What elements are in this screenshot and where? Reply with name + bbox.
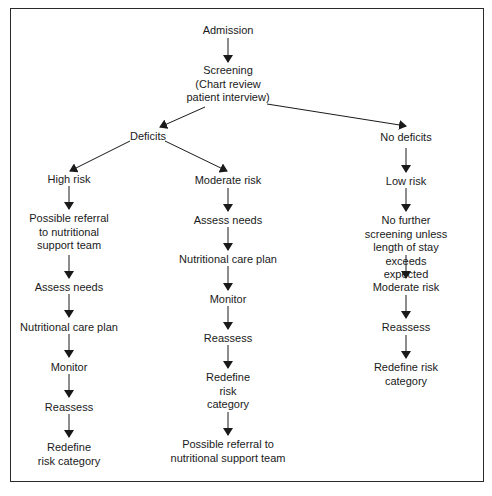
node-high-step-5: Reassess — [45, 401, 93, 415]
node-screening: Screening (Chart review patient intervie… — [186, 64, 269, 105]
node-high-step-2: Assess needs — [35, 281, 103, 295]
node-low-step-2: Moderate risk — [373, 281, 440, 295]
node-moderate-step-4: Reassess — [204, 332, 252, 346]
node-moderate-step-2: Nutritional care plan — [179, 253, 277, 267]
node-low-step-4: Redefine risk category — [363, 361, 449, 388]
node-moderate-risk: Moderate risk — [195, 174, 262, 188]
node-high-risk: High risk — [48, 173, 91, 187]
node-high-step-3: Nutritional care plan — [20, 321, 118, 335]
node-deficits: Deficits — [130, 130, 166, 144]
node-high-step-4: Monitor — [51, 361, 88, 375]
node-moderate-step-5: Redefine risk category — [206, 371, 250, 412]
node-moderate-step-3: Monitor — [210, 293, 247, 307]
node-moderate-step-1: Assess needs — [194, 214, 262, 228]
node-low-step-1: No further screening unless length of st… — [363, 214, 449, 282]
node-high-step-1: Possible referral to nutritional support… — [29, 212, 108, 253]
node-no-deficits: No deficits — [380, 131, 431, 145]
node-admission: Admission — [203, 24, 254, 38]
node-low-risk: Low risk — [386, 175, 426, 189]
node-low-step-3: Reassess — [382, 321, 430, 335]
node-moderate-step-6: Possible referral to nutritional support… — [171, 438, 286, 465]
node-high-step-6: Redefine risk category — [38, 441, 100, 468]
